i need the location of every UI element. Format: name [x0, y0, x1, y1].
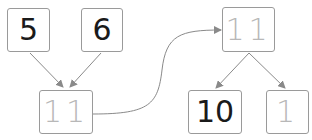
arrow-6-to-11 — [70, 53, 101, 87]
node-box-5: 5 — [7, 8, 50, 52]
node-label: 1 — [276, 97, 299, 127]
node-box-10: 10 — [188, 90, 242, 134]
arrow-11-to-10 — [216, 53, 249, 88]
node-label: 10 — [196, 97, 234, 127]
node-box-11-sum: 11 — [39, 90, 93, 134]
arrow-5-to-11 — [30, 53, 63, 87]
node-label: 5 — [19, 15, 38, 45]
node-label: 6 — [92, 15, 111, 45]
node-box-11-split: 11 — [222, 7, 275, 52]
node-label: 11 — [43, 97, 89, 127]
node-box-6: 6 — [81, 8, 123, 52]
arrow-11-to-1 — [249, 53, 285, 88]
node-box-1: 1 — [266, 90, 309, 134]
node-label: 11 — [225, 15, 271, 45]
